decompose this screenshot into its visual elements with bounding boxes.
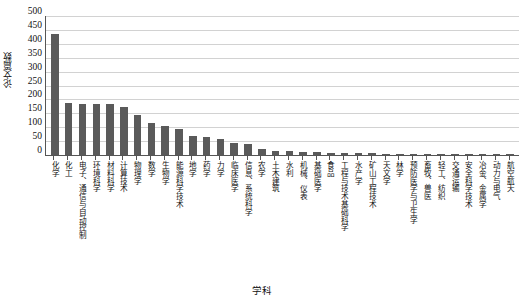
- bar-slot: [421, 16, 435, 155]
- y-tick-label: 150: [28, 104, 42, 114]
- x-label-slot: 水利: [282, 161, 296, 271]
- x-tick-slot: [144, 156, 158, 160]
- x-label-slot: 化工: [61, 161, 75, 271]
- x-tick-mark: [233, 156, 234, 160]
- bar-slot: [324, 16, 338, 155]
- x-label-slot: 预防医学与卫生学: [406, 161, 420, 271]
- plot-area: [45, 16, 519, 156]
- bar: [410, 154, 418, 155]
- x-tick-slot: [420, 156, 434, 160]
- bar-slot: [227, 16, 241, 155]
- x-tick-slot: [171, 156, 185, 160]
- bar: [161, 126, 169, 155]
- bar-slot: [434, 16, 448, 155]
- x-label-slot: 机械、仪表: [295, 161, 309, 271]
- x-tick-mark: [302, 156, 303, 160]
- bar-slot: [103, 16, 117, 155]
- x-tick-label: 基础医学: [312, 161, 320, 192]
- x-tick-slot: [502, 156, 516, 160]
- bar: [148, 123, 156, 155]
- bar: [506, 154, 514, 155]
- bar-slot: [379, 16, 393, 155]
- x-tick-label: 水利: [284, 161, 292, 177]
- y-tick-label: 250: [28, 77, 42, 87]
- x-tick-mark: [426, 156, 427, 160]
- x-label-slot: 物理学: [130, 161, 144, 271]
- bar: [437, 154, 445, 155]
- bar: [327, 153, 335, 156]
- bar: [258, 149, 266, 155]
- bar-slot: [393, 16, 407, 155]
- x-tick-label: 临床医学: [229, 161, 237, 192]
- x-tick-mark: [53, 156, 54, 160]
- x-tick-slot: [378, 156, 392, 160]
- x-tick-mark: [329, 156, 330, 160]
- x-label-slot: 电子、通信与自动控制: [75, 161, 89, 271]
- x-tick-mark: [191, 156, 192, 160]
- x-label-slot: 材料科学: [102, 161, 116, 271]
- x-tick-slot: [130, 156, 144, 160]
- bar-slot: [296, 16, 310, 155]
- y-tick-label: 100: [28, 118, 42, 128]
- bar: [313, 152, 321, 155]
- bar-slot: [476, 16, 490, 155]
- x-tick-label: 农学: [257, 161, 265, 177]
- bar: [299, 152, 307, 155]
- x-tick-mark: [288, 156, 289, 160]
- x-label-slot: 化学: [47, 161, 61, 271]
- x-tick-label: 化学: [50, 161, 58, 177]
- x-tick-label: 畜牧、兽医: [422, 161, 430, 200]
- bar-slot: [89, 16, 103, 155]
- x-tick-mark: [67, 156, 68, 160]
- x-label-slot: 林学: [392, 161, 406, 271]
- x-tick-slot: [282, 156, 296, 160]
- x-tick-label: 地学: [188, 161, 196, 177]
- bar-slot: [158, 16, 172, 155]
- bar: [189, 136, 197, 155]
- x-tick-slot: [61, 156, 75, 160]
- bar: [244, 144, 252, 155]
- bar-slot: [200, 16, 214, 155]
- x-tick-label: 航空航天: [505, 161, 513, 192]
- bar: [272, 151, 280, 155]
- y-axis-title: 论文篇数: [2, 52, 16, 88]
- x-tick-slot: [364, 156, 378, 160]
- y-tick-label: 0: [37, 146, 42, 156]
- x-tick-label: 生物学: [160, 161, 168, 184]
- x-label-slot: 矿山工程技术: [364, 161, 378, 271]
- bar-slot: [407, 16, 421, 155]
- bar-slot: [352, 16, 366, 155]
- x-tick-label: 食品: [326, 161, 334, 177]
- x-tick-mark: [109, 156, 110, 160]
- x-tick-mark: [385, 156, 386, 160]
- bar: [355, 153, 363, 155]
- x-tick-mark: [164, 156, 165, 160]
- x-label-slot: 轻工、纺织: [433, 161, 447, 271]
- y-tick-label: 50: [33, 132, 43, 142]
- x-tick-slot: [240, 156, 254, 160]
- x-tick-mark: [509, 156, 510, 160]
- x-tick-slot: [447, 156, 461, 160]
- x-tick-mark: [122, 156, 123, 160]
- x-label-slot: 冶金、金属学: [475, 161, 489, 271]
- x-label-slot: 能源科学技术: [171, 161, 185, 271]
- bar-slot: [117, 16, 131, 155]
- y-tick-label: 400: [28, 35, 42, 45]
- bar-slot: [214, 16, 228, 155]
- bar-slot: [462, 16, 476, 155]
- bar: [286, 151, 294, 155]
- bar-slot: [490, 16, 504, 155]
- x-label-slot: 药学: [199, 161, 213, 271]
- bar: [479, 154, 487, 155]
- x-tick-mark: [81, 156, 82, 160]
- bar: [134, 115, 142, 155]
- bar-series: [46, 16, 519, 155]
- x-tick-label: 土木建筑: [271, 161, 279, 192]
- x-tick-mark: [398, 156, 399, 160]
- x-tick-label: 冶金、金属学: [478, 161, 486, 208]
- bar: [217, 139, 225, 155]
- x-tick-slot: [309, 156, 323, 160]
- x-axis-title: 学科: [0, 283, 524, 297]
- y-axis-tick-labels: 500450400350300250200150100500: [16, 11, 42, 156]
- x-axis-tick-marks: [45, 156, 518, 160]
